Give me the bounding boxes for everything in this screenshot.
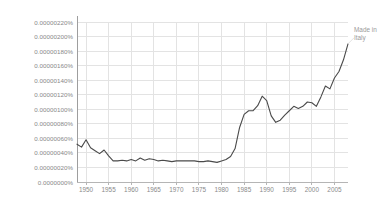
- x-tick-label: 1960: [124, 186, 138, 194]
- x-tick-label: 1955: [102, 186, 116, 194]
- x-tick-label: 2000: [305, 186, 319, 194]
- y-axis-tick-labels: 0.00000220%0.00000200%0.00000180%0.00000…: [0, 0, 73, 214]
- y-tick-label: 0.00000080%: [0, 120, 73, 127]
- x-tick-label: 1995: [282, 186, 296, 194]
- y-tick-label: 0.00000160%: [0, 62, 73, 69]
- plot-area: [77, 22, 348, 182]
- ngram-chart-page: 0.00000220%0.00000200%0.00000180%0.00000…: [0, 0, 386, 214]
- x-tick-label: 1980: [214, 186, 228, 194]
- y-tick-label: 0.00000100%: [0, 106, 73, 113]
- y-tick-label: 0.00000140%: [0, 77, 73, 84]
- y-tick-label: 0.00000040%: [0, 149, 73, 156]
- y-tick-label: 0.00000200%: [0, 33, 73, 40]
- y-tick-label: 0.00000060%: [0, 135, 73, 142]
- legend-label-line-2: Italy: [354, 34, 386, 42]
- x-tick-label: 1975: [192, 186, 206, 194]
- x-tick-label: 1990: [260, 186, 274, 194]
- y-tick-label: 0.00000220%: [0, 19, 73, 26]
- x-tick-label: 1970: [169, 186, 183, 194]
- x-tick-label: 1950: [79, 186, 93, 194]
- x-tick-label: 2005: [327, 186, 341, 194]
- y-tick-label: 0.00000180%: [0, 48, 73, 55]
- y-tick-label: 0.00000120%: [0, 91, 73, 98]
- legend-label-line-1: Made in: [354, 26, 386, 34]
- x-tick-label: 1965: [147, 186, 161, 194]
- x-tick-label: 1985: [237, 186, 251, 194]
- legend: Made in Italy: [354, 26, 386, 43]
- x-axis-tick-labels: 1950195519601965197019751980198519901995…: [0, 186, 386, 200]
- y-tick-label: 0.00000020%: [0, 164, 73, 171]
- y-tick-label: 0.0000000%: [0, 179, 73, 186]
- series-made-in-italy: [77, 22, 348, 182]
